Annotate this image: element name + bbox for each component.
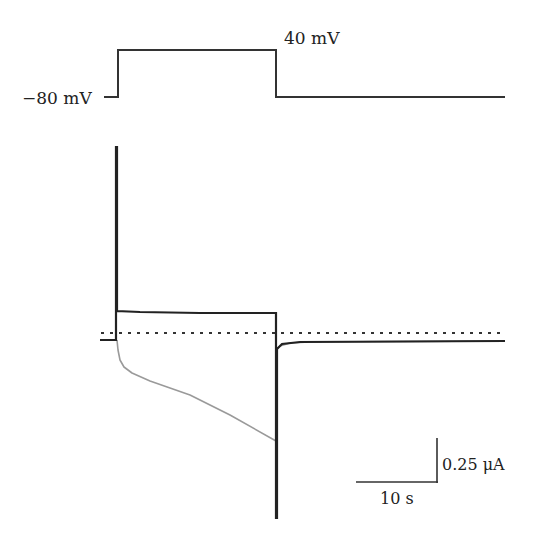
current-scale-label: 0.25 μA xyxy=(442,455,505,474)
step-voltage-label: 40 mV xyxy=(284,28,340,48)
holding-voltage-label: −80 mV xyxy=(22,88,92,108)
voltage-command-trace xyxy=(104,50,505,97)
figure: −80 mV 40 mV 0.25 μA 10 s xyxy=(0,0,537,545)
time-scale-label: 10 s xyxy=(380,489,414,508)
chart-svg: −80 mV 40 mV 0.25 μA 10 s xyxy=(0,0,537,545)
scale-bar: 0.25 μA 10 s xyxy=(356,438,505,508)
current-trace-gray xyxy=(117,340,505,441)
